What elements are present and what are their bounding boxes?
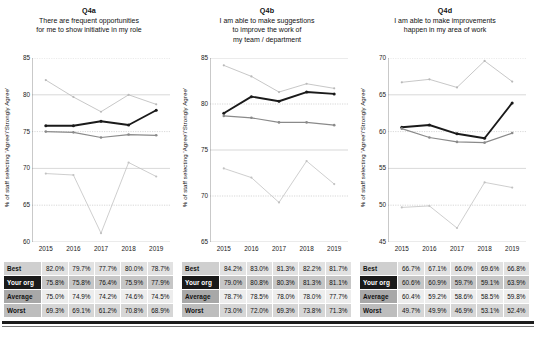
- series-marker: [483, 141, 486, 144]
- table-row: Worst49.7%49.9%46.9%53.1%52.4%: [360, 304, 530, 318]
- y-axis-tick: 65: [369, 92, 386, 98]
- chart-subtitle-line: to improve the work of: [178, 25, 356, 34]
- series-marker: [401, 81, 403, 83]
- footer-rule: [2, 321, 534, 324]
- table-row-label: Best: [360, 262, 398, 276]
- table-row-label: Worst: [182, 304, 220, 318]
- table-row: Worst69.3%69.1%61.2%70.8%68.9%: [4, 304, 174, 318]
- table-cell: 77.7%: [95, 262, 121, 276]
- y-axis-tick: 70: [369, 55, 386, 61]
- y-axis-tick: 65: [191, 239, 208, 245]
- series-marker: [278, 121, 281, 124]
- table-cell: 66.0%: [451, 262, 477, 276]
- table-cell: 74.9%: [68, 290, 94, 304]
- table-row: Best66.7%67.1%66.0%69.6%66.8%: [360, 262, 530, 276]
- table-cell: 81.7%: [325, 262, 351, 276]
- series-marker: [333, 87, 335, 89]
- series-marker: [333, 124, 336, 127]
- series-marker: [250, 177, 252, 179]
- data-table: Best84.2%83.0%81.3%82.2%81.7%Your org79.…: [182, 262, 352, 318]
- table-cell: 79.7%: [68, 262, 94, 276]
- series-marker: [223, 167, 225, 169]
- table-cell: 81.3%: [299, 276, 325, 290]
- x-axis-tick: 2017: [445, 246, 469, 252]
- y-axis-tick: 50: [369, 202, 386, 208]
- table-cell: 69.3%: [273, 304, 299, 318]
- chart-title-code: Q4b: [178, 6, 356, 16]
- chart-title-code: Q4a: [0, 6, 178, 16]
- table-cell: 80.0%: [121, 262, 147, 276]
- series-marker: [223, 64, 225, 66]
- y-axis-label: % of staff selecting 'Agree'/'Strongly A…: [179, 52, 191, 242]
- table-row-label: Average: [4, 290, 42, 304]
- table-cell: 81.3%: [273, 262, 299, 276]
- table-cell: 78.7%: [147, 262, 173, 276]
- series-marker: [128, 94, 130, 96]
- table-cell: 60.6%: [398, 276, 424, 290]
- y-axis-label: % of staff selecting 'Agree'/'Strongly A…: [357, 52, 369, 242]
- table-cell: 72.0%: [246, 304, 272, 318]
- series-marker: [401, 127, 404, 130]
- table-row-label: Best: [4, 262, 42, 276]
- series-marker: [45, 130, 48, 133]
- table-cell: 61.2%: [95, 304, 121, 318]
- footer-rule-thin: [2, 326, 534, 327]
- series-marker: [72, 124, 75, 127]
- series-line: [402, 182, 512, 228]
- x-axis-tick: 2017: [89, 246, 113, 252]
- table-cell: 52.4%: [503, 304, 529, 318]
- series-marker: [127, 133, 130, 136]
- chart-panel: Q4d I am able to make improvements happe…: [356, 0, 534, 340]
- chart-title: Q4d I am able to make improvements happe…: [356, 0, 534, 52]
- x-axis-tick: 2015: [34, 246, 58, 252]
- table-cell: 60.9%: [424, 276, 450, 290]
- table-cell: 53.1%: [477, 304, 503, 318]
- table-cell: 63.9%: [503, 276, 529, 290]
- table-cell: 73.0%: [220, 304, 246, 318]
- x-axis-tick: 2015: [212, 246, 236, 252]
- series-marker: [223, 115, 226, 118]
- series-line: [224, 116, 334, 125]
- series-marker: [484, 60, 486, 62]
- series-marker: [511, 101, 514, 104]
- chart-svg: [388, 58, 526, 242]
- plot-region: [210, 58, 352, 242]
- table-row: Average78.7%78.5%78.0%78.0%77.7%: [182, 290, 352, 304]
- table-row-label: Average: [182, 290, 220, 304]
- series-marker: [456, 227, 458, 229]
- series-marker: [511, 80, 513, 82]
- table-cell: 59.2%: [424, 290, 450, 304]
- series-marker: [128, 161, 130, 163]
- table-cell: 75.9%: [121, 276, 147, 290]
- table-cell: 78.7%: [220, 290, 246, 304]
- series-marker: [278, 201, 280, 203]
- chart-subtitle-line: for me to show initiative in my role: [0, 25, 178, 34]
- chart-subtitle-line: my team / department: [178, 35, 356, 44]
- table-cell: 74.5%: [147, 290, 173, 304]
- table-cell: 75.8%: [68, 276, 94, 290]
- y-axis-tick: 75: [191, 147, 208, 153]
- table-cell: 68.9%: [147, 304, 173, 318]
- table-cell: 49.7%: [398, 304, 424, 318]
- y-axis-tick: 85: [191, 55, 208, 61]
- x-axis-tick: 2016: [239, 246, 263, 252]
- series-marker: [45, 79, 47, 81]
- series-line: [46, 80, 156, 112]
- table-row: Your org79.0%80.8%80.3%81.3%81.1%: [182, 276, 352, 290]
- series-marker: [250, 95, 253, 98]
- table-cell: 49.9%: [424, 304, 450, 318]
- series-marker: [72, 96, 74, 98]
- series-line: [402, 61, 512, 87]
- series-line: [402, 129, 512, 143]
- table-cell: 82.0%: [42, 262, 68, 276]
- table-cell: 73.8%: [299, 304, 325, 318]
- series-marker: [456, 132, 459, 135]
- y-axis-tick: 70: [191, 193, 208, 199]
- series-line: [224, 161, 334, 202]
- series-marker: [428, 136, 431, 139]
- series-marker: [100, 136, 103, 139]
- chart-title-code: Q4d: [356, 6, 534, 16]
- series-marker: [305, 121, 308, 124]
- chart-area: % of staff selecting 'Agree'/'Strongly A…: [356, 52, 534, 260]
- data-table: Best82.0%79.7%77.7%80.0%78.7%Your org75.…: [4, 262, 174, 318]
